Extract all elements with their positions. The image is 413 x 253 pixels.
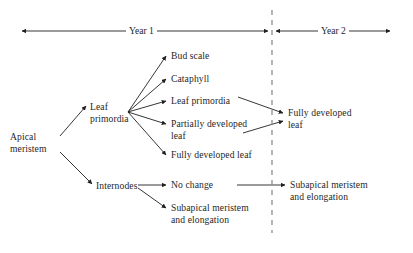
- node-apical-meristem: Apical meristem: [10, 131, 47, 154]
- year-1-label: Year 1: [126, 25, 157, 36]
- developmental-fate-diagram: Year 1 Year 2 Apical meristem Leaf primo…: [0, 0, 413, 253]
- edge-leafprimordia-to-fdl-year2: [238, 97, 283, 113]
- node-partially-developed-leaf: Partially developed leaf: [171, 118, 247, 141]
- node-internodes: Internodes: [96, 180, 138, 192]
- node-fully-developed-leaf-year1: Fully developed leaf: [171, 149, 252, 161]
- node-subapical-meristem-year1: Subapical meristem and elongation: [171, 202, 249, 225]
- node-leaf-primordia-fate: Leaf primordia: [171, 95, 230, 107]
- year-2-label: Year 2: [318, 25, 349, 36]
- node-bud-scale: Bud scale: [171, 50, 209, 62]
- node-fully-developed-leaf-year2: Fully developed leaf: [288, 107, 352, 130]
- edge-partially-to-fdl-year2: [243, 121, 283, 133]
- edge-internodes-to-subapical-year1: [138, 188, 166, 208]
- node-no-change: No change: [171, 179, 213, 191]
- node-cataphyll: Cataphyll: [171, 73, 209, 85]
- node-leaf-primordia-source: Leaf primordia: [90, 101, 129, 124]
- edge-apical-to-leaf-primordia: [60, 106, 86, 136]
- edge-apical-to-internodes: [60, 152, 92, 184]
- node-subapical-meristem-year2: Subapical meristem and elongation: [290, 179, 368, 202]
